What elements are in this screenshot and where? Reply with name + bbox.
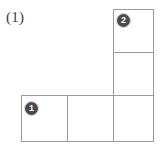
grid-cell-middle-right <box>113 52 154 96</box>
marker-two: 2 <box>117 14 130 27</box>
figure-container: (1) 1 2 <box>0 0 168 150</box>
l-shaped-grid-figure: 1 2 <box>0 0 168 150</box>
marker-one: 1 <box>25 102 38 115</box>
grid-cell-bottom-middle <box>67 95 114 142</box>
grid-cell-bottom-right <box>113 95 154 142</box>
